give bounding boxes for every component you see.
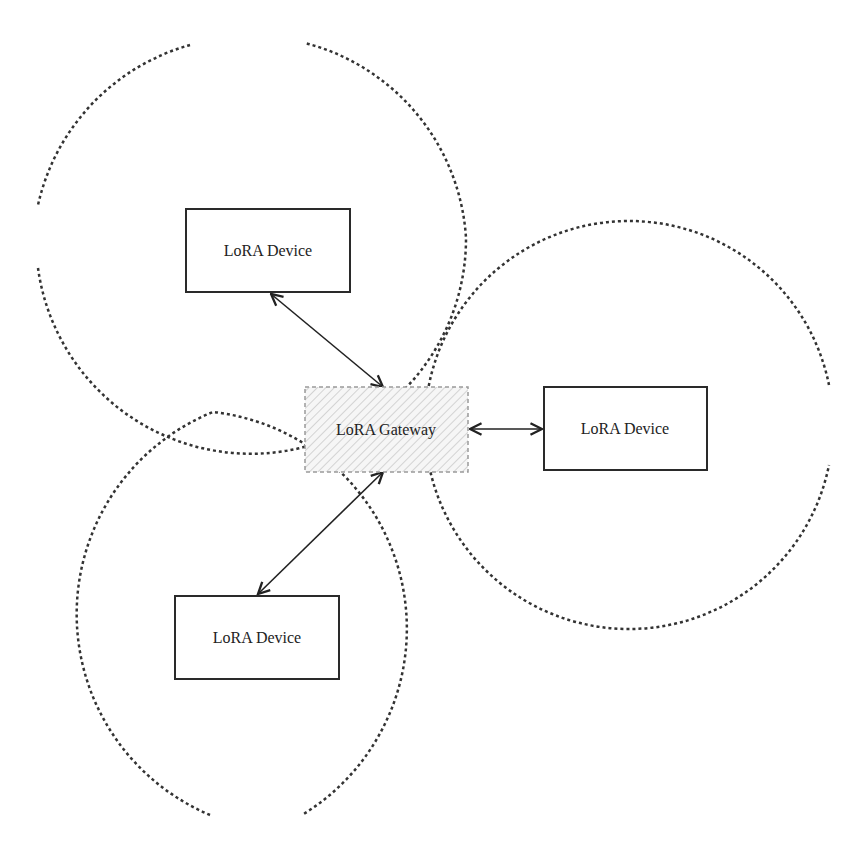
gateway-node[interactable]: LoRA Gateway <box>305 387 468 472</box>
device-node-right[interactable]: LoRA Device <box>544 387 707 470</box>
device-label: LoRA Device <box>581 420 669 437</box>
device-label: LoRA Device <box>224 242 312 259</box>
device-node-top-left[interactable]: LoRA Device <box>186 209 350 292</box>
link-gateway-bottom-left-device <box>258 472 383 594</box>
link-gateway-top-left-device <box>271 294 383 387</box>
device-label: LoRA Device <box>213 629 301 646</box>
device-node-bottom-left[interactable]: LoRA Device <box>175 596 339 679</box>
gateway-label: LoRA Gateway <box>336 421 436 439</box>
lora-network-diagram: LoRA Gateway LoRA Device LoRA Device LoR… <box>0 0 859 841</box>
